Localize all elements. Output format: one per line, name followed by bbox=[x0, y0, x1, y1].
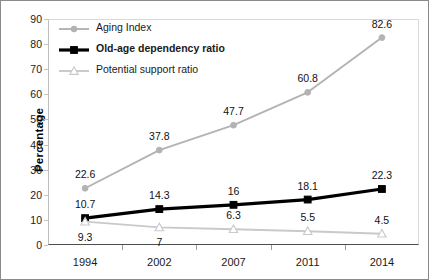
chart-figure: Percentage 0102030405060708090 199420022… bbox=[0, 0, 429, 280]
y-tick-label: 0 bbox=[36, 240, 42, 251]
legend-marker-icon bbox=[59, 63, 89, 75]
data-point-marker bbox=[82, 185, 88, 191]
y-tick-label: 60 bbox=[30, 89, 42, 100]
legend-label: Old-age dependency ratio bbox=[96, 43, 225, 54]
chart-legend: Aging IndexOld-age dependency ratioPoten… bbox=[59, 21, 225, 75]
y-tick-label: 40 bbox=[30, 139, 42, 150]
y-tick-label: 50 bbox=[30, 114, 42, 125]
data-point-marker bbox=[305, 89, 311, 95]
data-point-marker bbox=[71, 47, 78, 54]
legend-marker-icon bbox=[59, 21, 89, 33]
x-tick-mark bbox=[122, 245, 123, 250]
data-point-marker bbox=[379, 186, 386, 193]
legend-label: Potential support ratio bbox=[96, 64, 198, 75]
x-tick-label: 2007 bbox=[221, 257, 245, 268]
x-tick-mark bbox=[196, 245, 197, 250]
legend-label: Aging Index bbox=[96, 22, 151, 33]
data-point-marker bbox=[231, 122, 237, 128]
x-tick-label: 2002 bbox=[147, 257, 171, 268]
x-tick-mark bbox=[271, 245, 272, 250]
y-tick-label: 90 bbox=[30, 14, 42, 25]
x-tick-mark bbox=[345, 245, 346, 250]
data-point-marker bbox=[230, 201, 237, 208]
legend-marker-icon bbox=[59, 42, 89, 54]
data-point-marker bbox=[304, 196, 311, 203]
data-point-marker bbox=[156, 147, 162, 153]
legend-item[interactable]: Potential support ratio bbox=[59, 63, 225, 75]
legend-item[interactable]: Old-age dependency ratio bbox=[59, 42, 225, 54]
data-point-marker bbox=[71, 26, 77, 32]
x-tick-label: 2011 bbox=[296, 257, 320, 268]
y-tick-label: 30 bbox=[30, 164, 42, 175]
legend-item[interactable]: Aging Index bbox=[59, 21, 225, 33]
y-tick-label: 70 bbox=[30, 64, 42, 75]
y-tick-label: 20 bbox=[30, 190, 42, 201]
x-tick-label: 1994 bbox=[73, 257, 97, 268]
y-tick-mark bbox=[44, 245, 48, 246]
data-point-marker bbox=[379, 35, 385, 41]
data-point-marker bbox=[156, 206, 163, 213]
x-tick-label: 2014 bbox=[370, 257, 394, 268]
y-tick-label: 80 bbox=[30, 39, 42, 50]
y-tick-label: 10 bbox=[30, 215, 42, 226]
